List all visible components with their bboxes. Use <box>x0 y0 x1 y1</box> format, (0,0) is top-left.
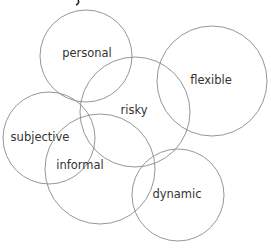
circle-flexible: flexible <box>157 26 267 136</box>
circle-label-flexible: flexible <box>190 73 232 87</box>
circle-personal: personal <box>40 10 132 102</box>
circle-risky: risky <box>80 57 190 167</box>
circle-label-personal: personal <box>62 46 112 60</box>
circle-label-subjective: subjective <box>11 130 70 144</box>
venn-diagram: personal flexible risky subjective infor… <box>0 0 271 250</box>
circle-dynamic: dynamic <box>132 149 224 241</box>
circle-label-risky: risky <box>121 103 148 117</box>
circle-label-informal: informal <box>56 158 104 172</box>
circle-label-dynamic: dynamic <box>152 187 201 201</box>
cropped-title-fragment <box>76 0 79 5</box>
